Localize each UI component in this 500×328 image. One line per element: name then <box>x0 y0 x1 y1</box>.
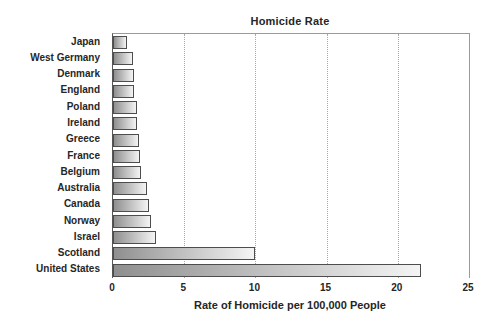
category-label-ireland: Ireland <box>0 117 100 128</box>
x-tick-label-5: 5 <box>180 282 186 293</box>
category-label-france: France <box>0 150 100 161</box>
bar-japan <box>113 36 127 49</box>
gridline-10 <box>255 34 256 278</box>
bar-scotland <box>113 247 255 260</box>
x-tick-label-15: 15 <box>320 282 331 293</box>
category-label-norway: Norway <box>0 215 100 226</box>
gridline-15 <box>327 34 328 278</box>
category-label-greece: Greece <box>0 133 100 144</box>
category-label-united-states: United States <box>0 263 100 274</box>
x-tick-label-25: 25 <box>462 282 473 293</box>
chart-title: Homicide Rate <box>112 15 468 27</box>
homicide-rate-chart: Homicide Rate JapanWest GermanyDenmarkEn… <box>0 0 500 328</box>
plot-area <box>112 33 470 278</box>
gridline-20 <box>398 34 399 278</box>
x-tick-label-0: 0 <box>109 282 115 293</box>
category-label-poland: Poland <box>0 101 100 112</box>
category-label-australia: Australia <box>0 182 100 193</box>
category-label-west-germany: West Germany <box>0 52 100 63</box>
x-tick-label-10: 10 <box>249 282 260 293</box>
bar-west-germany <box>113 52 133 65</box>
bar-australia <box>113 182 147 195</box>
gridline-5 <box>184 34 185 278</box>
bar-greece <box>113 134 139 147</box>
bar-england <box>113 85 134 98</box>
category-label-scotland: Scotland <box>0 247 100 258</box>
x-axis-title: Rate of Homicide per 100,000 People <box>194 299 386 311</box>
category-label-belgium: Belgium <box>0 166 100 177</box>
bar-united-states <box>113 264 421 277</box>
category-label-japan: Japan <box>0 36 100 47</box>
category-label-canada: Canada <box>0 198 100 209</box>
bar-norway <box>113 215 151 228</box>
category-label-england: England <box>0 84 100 95</box>
bar-france <box>113 150 140 163</box>
bar-belgium <box>113 166 141 179</box>
bar-israel <box>113 231 156 244</box>
x-tick-label-20: 20 <box>391 282 402 293</box>
bar-poland <box>113 101 137 114</box>
bar-ireland <box>113 117 137 130</box>
category-label-israel: Israel <box>0 231 100 242</box>
bar-denmark <box>113 69 134 82</box>
bar-canada <box>113 199 149 212</box>
category-axis-labels: JapanWest GermanyDenmarkEnglandPolandIre… <box>0 33 106 277</box>
category-label-denmark: Denmark <box>0 68 100 79</box>
